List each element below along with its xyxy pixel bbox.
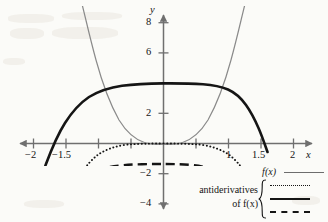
y-axis-label: y: [150, 5, 155, 16]
y-tick-label-2: 2: [146, 108, 151, 119]
legend-brace-icon: [258, 179, 267, 219]
y-tick-label-neg4: −4: [140, 198, 151, 209]
x-tick-label-neg1p5: −1.5: [52, 150, 71, 161]
y-tick-label-neg2: −2: [140, 168, 151, 179]
legend-group-label-line2: of f(x): [192, 198, 258, 210]
legend-sample-thick-solid: [270, 193, 310, 203]
legend-group-label-line1: antiderivatives: [192, 184, 258, 196]
x-tick-label-1: 1: [226, 150, 231, 161]
legend-sample-dashed: [270, 206, 310, 216]
legend-label-fx: f(x): [262, 166, 276, 178]
legend-sample-thin-solid: [284, 167, 324, 177]
legend-sample-dotted: [270, 180, 310, 190]
figure-graph-antiderivatives: −2 −1.5 1 1.5 2 8 6 2 −2 −4 x y f(x) ant…: [0, 0, 328, 222]
legend-row-fx: f(x): [196, 166, 324, 178]
x-tick-label-neg2: −2: [25, 150, 36, 161]
legend-row-dashed: [270, 206, 310, 216]
legend: f(x) antiderivatives of f(x): [196, 166, 324, 220]
legend-row-thick-solid: [270, 193, 310, 203]
legend-row-dotted: [270, 180, 310, 190]
legend-label-fx-text: f(x): [262, 166, 276, 177]
x-axis-label: x: [306, 150, 311, 161]
y-tick-label-8: 8: [146, 17, 151, 28]
y-tick-label-6: 6: [146, 47, 151, 58]
x-tick-label-1p5: 1.5: [252, 150, 265, 161]
x-tick-label-2: 2: [290, 150, 295, 161]
